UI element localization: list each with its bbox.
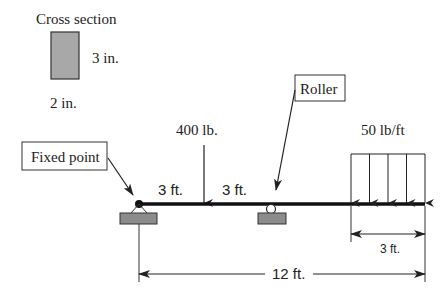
cross-section-height-label: 3 in. — [92, 50, 119, 66]
distributed-length-dimension: 3 ft. — [351, 206, 425, 282]
beam-diagram: Cross section 3 in. 2 in. Fixed point Ro… — [0, 0, 446, 297]
pin-support-base — [120, 213, 157, 224]
roller-label: Roller — [300, 81, 338, 97]
roller-support — [258, 205, 286, 225]
cross-section-width-label: 2 in. — [50, 95, 77, 111]
segment-2-label: 3 ft. — [222, 181, 247, 198]
distributed-load: 50 lb/ft — [351, 122, 425, 203]
point-load-label: 400 lb. — [176, 122, 218, 138]
roller-arrow — [276, 90, 295, 190]
roller-callout: Roller — [276, 75, 345, 190]
fixed-point-arrow — [108, 158, 133, 195]
roller-support-base — [258, 213, 286, 224]
cross-section: Cross section 3 in. 2 in. — [36, 11, 119, 111]
cross-section-title: Cross section — [36, 11, 117, 27]
total-length-label: 12 ft. — [272, 265, 305, 282]
distributed-load-label: 50 lb/ft — [361, 122, 406, 138]
roller-wheel — [267, 205, 276, 214]
segment-1-label: 3 ft. — [158, 181, 183, 198]
distributed-length-label: 3 ft. — [380, 242, 400, 256]
cross-section-rect — [51, 32, 79, 79]
fixed-point-label: Fixed point — [31, 149, 101, 165]
fixed-point-callout: Fixed point — [22, 142, 133, 195]
